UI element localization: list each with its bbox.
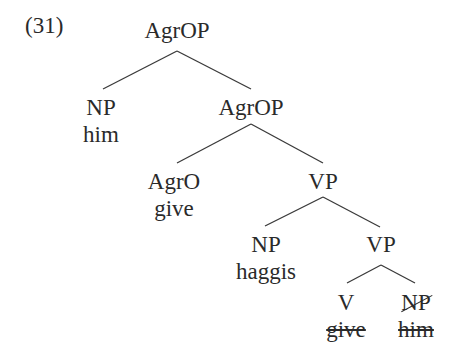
node-agrop-inner: AgrOP	[218, 96, 283, 119]
word-give-deleted: give	[326, 318, 366, 341]
node-agrop-root: AgrOP	[144, 19, 209, 42]
node-np-haggis: NP	[251, 233, 280, 256]
node-vp-upper: VP	[308, 170, 337, 193]
edge-agrop-agro	[177, 124, 251, 163]
node-v-trace: V	[338, 291, 355, 314]
word-give: give	[154, 197, 194, 220]
edge-vp-np	[265, 197, 323, 226]
word-him: him	[83, 123, 119, 146]
node-np-him: NP	[86, 96, 115, 119]
node-vp-lower: VP	[366, 233, 395, 256]
np-trace-label: NP	[401, 291, 430, 314]
node-np-trace-deleted: NP	[401, 291, 430, 314]
edge-vp2-v	[347, 265, 381, 283]
edge-root-agrop	[177, 51, 251, 89]
node-agro: AgrO	[148, 170, 200, 193]
word-him-deleted: him	[398, 318, 434, 341]
edge-vp-vp	[323, 197, 380, 227]
edge-vp2-np	[381, 265, 415, 283]
tree-edges	[0, 0, 460, 362]
edge-agrop-vp	[251, 124, 323, 163]
edge-root-np	[103, 51, 177, 89]
word-haggis: haggis	[236, 260, 296, 283]
